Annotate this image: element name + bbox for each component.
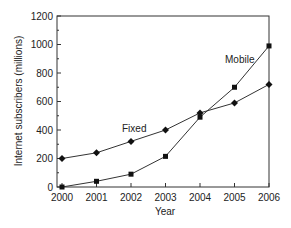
y-tick-label: 0: [47, 182, 53, 193]
fixed-series-label: Fixed: [122, 123, 146, 134]
diamond-marker: [266, 81, 273, 88]
square-marker: [163, 154, 168, 159]
mobile-series-label: Mobile: [225, 54, 255, 65]
x-tick-label: 2006: [258, 192, 281, 203]
diamond-marker: [128, 138, 135, 145]
x-tick-label: 2000: [51, 192, 74, 203]
x-tick-label: 2004: [189, 192, 212, 203]
diamond-marker: [59, 155, 66, 162]
y-tick-label: 1200: [31, 11, 54, 22]
x-tick-label: 2005: [223, 192, 246, 203]
square-marker: [94, 179, 99, 184]
square-marker: [60, 185, 65, 190]
y-tick-label: 200: [36, 153, 53, 164]
line-chart: 020040060080010001200 200020012002200320…: [0, 0, 291, 228]
square-marker: [129, 172, 134, 177]
x-tick-label: 2001: [85, 192, 108, 203]
y-tick-label: 800: [36, 68, 53, 79]
square-marker: [267, 43, 272, 48]
series-line-fixed: [62, 84, 269, 158]
diamond-marker: [162, 127, 169, 134]
y-tick-label: 600: [36, 96, 53, 107]
y-axis-ticks: 020040060080010001200: [31, 11, 61, 193]
y-axis-label: Internet subscribers (millions): [13, 36, 24, 167]
diamond-marker: [231, 99, 238, 106]
series-line-mobile: [62, 46, 269, 187]
x-axis-label: Year: [155, 206, 176, 217]
y-tick-label: 400: [36, 125, 53, 136]
y-tick-label: 1000: [31, 39, 54, 50]
diamond-marker: [93, 149, 100, 156]
x-tick-label: 2003: [154, 192, 177, 203]
square-marker: [198, 115, 203, 120]
x-axis-ticks: 2000200120022003200420052006: [51, 183, 281, 203]
series-lines: [59, 43, 273, 189]
square-marker: [232, 85, 237, 90]
x-tick-label: 2002: [120, 192, 143, 203]
